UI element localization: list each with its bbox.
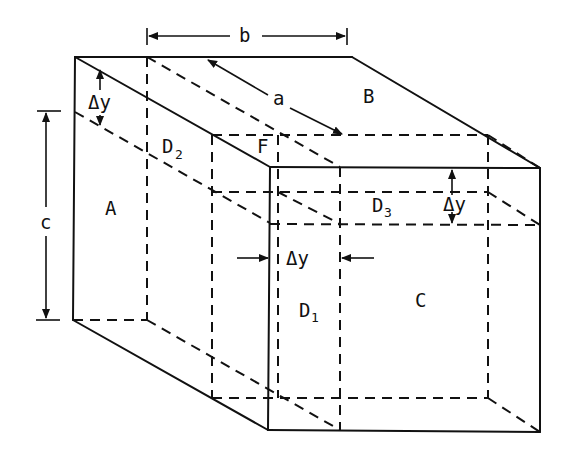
svg-text:D: D [299,299,310,321]
dimension-c: c [36,111,61,320]
dimension-dy-top: Δy [88,70,111,125]
dimension-a: a [208,60,342,134]
label-c: c [40,211,51,233]
region-label-a: A [105,197,117,219]
box-outline [73,57,540,432]
region-label-c: C [415,289,426,311]
svg-text:2: 2 [175,147,183,162]
region-label-d1: D 1 [299,299,319,325]
region-label-f: F [257,135,268,157]
label-a: a [273,87,284,109]
label-dy-right: Δy [443,193,466,215]
svg-text:D: D [372,194,383,216]
svg-text:3: 3 [384,205,392,220]
region-label-d2: D 2 [162,135,183,162]
svg-text:1: 1 [311,310,319,325]
box-diagram: b a c Δy Δy Δy A B C F D 2 D [0,0,575,453]
hidden-lines [73,57,540,432]
dimension-b: b [147,24,347,46]
label-dy-top: Δy [88,91,111,113]
svg-text:D: D [162,135,173,157]
region-label-d3: D 3 [372,194,392,220]
label-b: b [239,24,250,46]
label-dy-middle: Δy [286,247,309,269]
dimension-dy-middle: Δy [237,247,374,269]
region-label-b: B [363,85,374,107]
dimension-dy-right: Δy [443,170,466,223]
